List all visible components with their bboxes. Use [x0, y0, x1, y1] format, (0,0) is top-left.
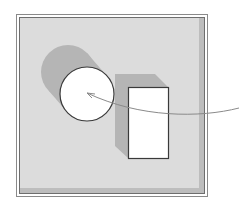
panel-bottom-shadow [20, 188, 204, 193]
rectangle-shape [129, 88, 169, 159]
circle-shape [60, 67, 114, 121]
shadow-diagram [0, 0, 239, 213]
panel-right-shadow [199, 18, 204, 193]
